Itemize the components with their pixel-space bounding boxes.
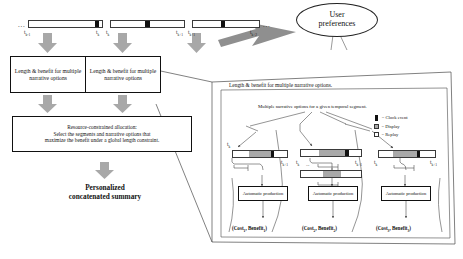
option-1-cb-mid: , Benefit	[245, 225, 263, 231]
length-benefit-box-2-text: Length & benefit for multiple narrative …	[86, 68, 160, 82]
timeline-bar-1	[28, 20, 103, 28]
legend-row-replay: = Replay	[374, 131, 408, 138]
legend-row-display: = Display	[374, 123, 408, 130]
detail-panel-subheader: Multiple narrative options for a given t…	[258, 104, 367, 109]
timeline-bar-3	[192, 20, 260, 28]
clock-event-marker	[417, 151, 420, 157]
option-1-cb-open: (Cost	[232, 225, 244, 231]
option-2-production-text: Automatic production	[311, 191, 355, 197]
gray-down-arrows	[38, 33, 206, 179]
option-2-cost-benefit: (Cost2, Benefit2)	[302, 225, 337, 233]
diagram-canvas: ... tk-1 tk tk tk+1 tk+1 tk+2 ... Length…	[0, 0, 463, 259]
option-1-tick-left: tk	[227, 141, 230, 149]
option-2-cb-mid: , Benefit	[315, 225, 333, 231]
option-2-tick-left: tk	[296, 159, 299, 167]
output-label: Personalized concatenated summary	[54, 183, 156, 201]
option-2-cb-open: (Cost	[302, 225, 314, 231]
replay-swatch-icon	[374, 132, 379, 137]
gray-arrow-1	[38, 33, 57, 53]
option-3-timeline	[378, 150, 436, 158]
gray-arrow-4	[38, 95, 57, 113]
allocation-box-text: Resource-constrained allocation: Select …	[41, 124, 163, 143]
option-3-cb-open: (Cost	[376, 225, 388, 231]
legend-label-replay: = Replay	[382, 132, 399, 137]
option-1-tick-right: tk+1	[281, 159, 288, 167]
option-3-cb-close: )	[409, 225, 411, 231]
timeline-tick-k-plus-2: tk+2	[250, 29, 257, 37]
gray-arrow-6	[95, 162, 114, 179]
timeline-tick-k2: tk	[106, 29, 109, 37]
option-3-cb-mid: , Benefit	[389, 225, 407, 231]
user-preferences-ellipse[interactable]: User preferences	[296, 3, 378, 37]
length-benefit-box-1-text: Length & benefit for multiple narrative …	[11, 68, 85, 82]
length-benefit-box-1[interactable]: Length & benefit for multiple narrative …	[10, 56, 86, 93]
display-segment	[393, 151, 417, 157]
gray-arrow-2	[113, 33, 132, 53]
clock-event-marker	[145, 21, 150, 27]
clock-event-marker	[345, 150, 349, 156]
length-benefit-box-2[interactable]: Length & benefit for multiple narrative …	[85, 56, 161, 93]
output-label-line-2: concatenated summary	[54, 192, 156, 201]
preferences-connector	[331, 35, 347, 50]
option-3-production-box[interactable]: Automatic production	[381, 186, 431, 201]
display-segment	[323, 171, 341, 177]
user-preferences-text: User preferences	[319, 11, 356, 29]
option-1-timeline	[232, 150, 288, 158]
timeline-tick-k-minus-1: tk-1	[24, 29, 30, 37]
timeline-right-ellipsis: ...	[263, 21, 270, 29]
allocation-box[interactable]: Resource-constrained allocation: Select …	[12, 116, 192, 152]
legend-label-clock-event: = Clock event	[382, 115, 408, 120]
option-2-production-box[interactable]: Automatic production	[308, 186, 358, 201]
display-segment	[249, 151, 271, 157]
option-3-tick-left: tk	[374, 159, 377, 167]
allocation-line-3: maximize the benefit under a global leng…	[43, 137, 161, 143]
option-2-ellipsis: ...	[306, 162, 309, 167]
option-2-tick-right: tk+1	[355, 159, 362, 167]
option-3-cost-benefit: (Cost3, Benefit3)	[376, 225, 411, 233]
user-preferences-line-2: preferences	[319, 20, 356, 29]
option-1-cost-benefit: (Cost1, Benefit1)	[232, 225, 267, 233]
legend: = Clock event = Display = Replay	[374, 114, 408, 140]
option-2-cb-close: )	[335, 225, 337, 231]
legend-label-display: = Display	[382, 124, 400, 129]
detail-panel-header: Length & benefit for multiple narrative …	[229, 82, 332, 88]
display-segment	[319, 150, 345, 156]
option-2-timeline-upper	[300, 149, 362, 157]
clock-event-swatch-icon	[375, 115, 377, 121]
timeline-bar-2	[110, 20, 185, 28]
option-1-cb-close: )	[265, 225, 267, 231]
option-3-tick-right: tk+1	[430, 159, 437, 167]
clock-event-marker	[95, 21, 99, 27]
option-1-production-box[interactable]: Automatic production	[238, 186, 288, 201]
gray-arrow-5	[113, 95, 132, 113]
timeline-tick-k-plus-1: tk+1	[176, 29, 183, 37]
timeline-tick-k-plus-1b: tk+1	[188, 29, 195, 37]
output-label-line-1: Personalized	[54, 183, 156, 192]
option-2-timeline-lower	[300, 170, 362, 178]
timeline-left-ellipsis: ...	[18, 21, 25, 29]
option-1-production-text: Automatic production	[241, 191, 285, 197]
display-swatch-icon	[374, 124, 379, 129]
clock-event-marker	[271, 151, 274, 157]
legend-row-clock-event: = Clock event	[374, 114, 408, 121]
option-3-production-text: Automatic production	[384, 191, 428, 197]
timeline-tick-k: tk	[96, 29, 99, 37]
clock-event-marker	[221, 21, 225, 27]
